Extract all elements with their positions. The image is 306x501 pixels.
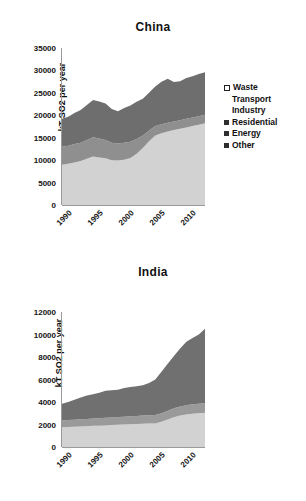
china-x-tick-label: 2005 [148, 208, 167, 227]
india-x-tick-label: 2000 [117, 450, 136, 469]
legend-swatch-transport-icon [224, 97, 229, 102]
india-x-tick-label: 1990 [55, 450, 74, 469]
india-x-tick-label: 2005 [148, 450, 167, 469]
china-chart-block: China kT SO2 per year 050001000015000200… [0, 0, 306, 252]
china-y-tick-label: 15000 [34, 133, 56, 142]
legend-item-transport[interactable]: Transport [224, 94, 277, 106]
india-x-tick-label: 1995 [86, 450, 105, 469]
india-plot-area [62, 312, 205, 447]
china-x-tick-label: 1995 [86, 208, 105, 227]
legend-label: Energy [232, 128, 261, 140]
india-x-tick-label: 2010 [179, 450, 198, 469]
legend-swatch-industry-icon [224, 108, 229, 113]
legend-item-residential[interactable]: Residential [224, 117, 277, 129]
china-x-axis-line [62, 205, 205, 206]
china-x-tick-label: 2010 [179, 208, 198, 227]
legend-item-industry[interactable]: Industry [224, 105, 277, 117]
india-stacked-area [62, 312, 205, 447]
india-y-tick-label: 10000 [34, 330, 56, 339]
china-plot-area [62, 48, 205, 205]
india-y-tick-label: 2000 [38, 420, 56, 429]
legend-label: Transport [232, 94, 271, 106]
india-y-tick-label: 0 [52, 443, 56, 452]
legend-label: Residential [232, 117, 277, 129]
legend-swatch-waste-icon [224, 85, 230, 91]
china-y-tick-label: 25000 [34, 88, 56, 97]
china-y-tick-label: 5000 [38, 178, 56, 187]
china-x-tick-label: 1990 [55, 208, 74, 227]
legend-item-waste[interactable]: Waste [224, 82, 277, 94]
china-y-tick-label: 0 [52, 201, 56, 210]
china-y-axis-line [61, 48, 62, 205]
india-plot-frame: kT SO2 per year 020004000600080001000012… [62, 312, 205, 447]
legend-item-energy[interactable]: Energy [224, 128, 277, 140]
legend-label: Industry [232, 105, 266, 117]
china-y-tick-label: 10000 [34, 156, 56, 165]
page-title-india: India [0, 265, 306, 279]
legend-swatch-residential-icon [224, 120, 229, 125]
india-y-tick-label: 4000 [38, 398, 56, 407]
legend-label: Waste [233, 82, 258, 94]
india-chart-block: India kT SO2 per year 020004000600080001… [0, 252, 306, 501]
india-x-axis-line [62, 447, 205, 448]
india-y-axis-line [61, 312, 62, 447]
china-plot-frame: kT SO2 per year 050001000015000200002500… [62, 48, 205, 205]
india-y-tick-label: 8000 [38, 353, 56, 362]
china-x-tick-label: 2000 [117, 208, 136, 227]
china-y-tick-label: 30000 [34, 66, 56, 75]
china-legend: WasteTransportIndustryResidentialEnergyO… [224, 82, 277, 151]
india-y-tick-label: 6000 [38, 375, 56, 384]
china-y-tick-label: 20000 [34, 111, 56, 120]
china-stacked-area [62, 48, 205, 205]
india-y-tick-label: 12000 [34, 308, 56, 317]
legend-label: Other [232, 140, 255, 152]
china-y-tick-label: 35000 [34, 44, 56, 53]
legend-swatch-energy-icon [224, 131, 229, 136]
legend-swatch-other-icon [224, 143, 229, 148]
legend-item-other[interactable]: Other [224, 140, 277, 152]
page-title-china: China [0, 20, 306, 34]
